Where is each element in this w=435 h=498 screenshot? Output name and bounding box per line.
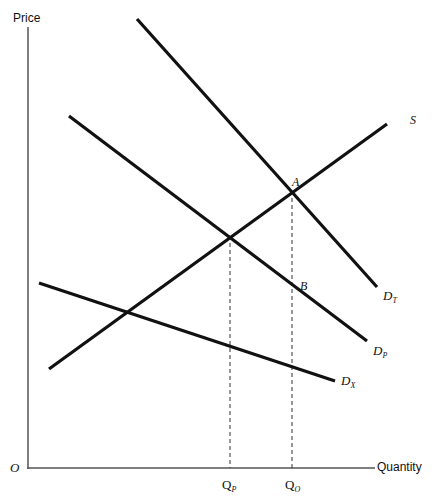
private-demand-label-main: D	[373, 343, 382, 358]
curve-s	[49, 124, 387, 369]
supply-curve-label: S	[410, 113, 416, 128]
qp-tick-label-sub: P	[231, 485, 236, 494]
qo-tick-label-sub: O	[294, 485, 300, 494]
origin-label: O	[10, 460, 19, 476]
total-demand-label-main: D	[383, 288, 392, 303]
total-demand-label-sub: T	[392, 296, 396, 305]
external-demand-label: DX	[341, 373, 355, 390]
point-a-label: A	[292, 175, 299, 190]
external-demand-label-main: D	[341, 373, 350, 388]
curve-d-t	[137, 19, 377, 287]
chart-canvas	[0, 0, 435, 498]
total-demand-label: DT	[383, 288, 397, 305]
private-demand-label: DP	[373, 343, 387, 360]
qo-tick-label-main: Q	[285, 477, 294, 492]
qo-tick-label: QO	[285, 477, 300, 494]
x-axis-label: Quantity	[377, 460, 422, 474]
qp-tick-label: QP	[222, 477, 236, 494]
private-demand-label-sub: P	[382, 351, 387, 360]
curve-d-x	[39, 283, 335, 381]
external-demand-label-sub: X	[350, 381, 355, 390]
point-b-label: B	[300, 279, 307, 294]
qp-tick-label-main: Q	[222, 477, 231, 492]
y-axis-label: Price	[13, 11, 40, 25]
